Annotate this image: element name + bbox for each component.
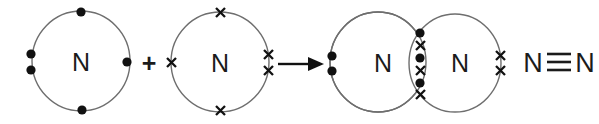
structural-formula: N N <box>523 48 595 78</box>
product-lone-pair-dot-lower <box>327 66 336 75</box>
formula-left-atom: N <box>523 48 543 78</box>
electron-dot-left-lower <box>26 65 35 74</box>
product-nitrogen-molecule: N N <box>327 12 505 112</box>
reactant-atom-2: N <box>167 8 273 115</box>
dot-and-cross-diagram: N + N <box>0 0 599 124</box>
product-lone-pair-dot-upper <box>327 51 336 60</box>
product-right-atom-label: N <box>451 49 469 77</box>
plus-operator: + <box>142 49 157 77</box>
atom-symbol-label: N <box>72 48 90 76</box>
bonding-dot-3 <box>415 78 424 87</box>
bonding-dot-1 <box>415 28 424 37</box>
bonding-dot-2 <box>415 53 424 62</box>
electron-dot-left-upper <box>26 49 35 58</box>
diagram-canvas: N + N <box>0 0 599 124</box>
arrow-head <box>308 57 324 71</box>
reactant-atom-1: N <box>26 7 131 114</box>
formula-right-atom: N <box>575 48 595 78</box>
reaction-arrow <box>278 57 324 71</box>
atom-symbol-label: N <box>211 49 229 77</box>
electron-cross-bottom <box>216 106 225 115</box>
triple-bond-icon <box>547 54 571 70</box>
electron-dot-right <box>122 57 131 66</box>
product-left-atom-label: N <box>374 49 392 77</box>
electron-dot-top <box>76 7 85 16</box>
electron-dot-bottom <box>77 105 86 114</box>
